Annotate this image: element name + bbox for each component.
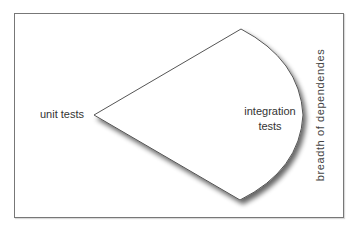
axis-label: breadth of dependendes: [314, 49, 326, 181]
unit-tests-label: unit tests: [40, 108, 84, 120]
integration-label-line2: tests: [240, 119, 300, 134]
integration-tests-label: integration tests: [240, 104, 300, 134]
integration-label-line1: integration: [240, 104, 300, 119]
